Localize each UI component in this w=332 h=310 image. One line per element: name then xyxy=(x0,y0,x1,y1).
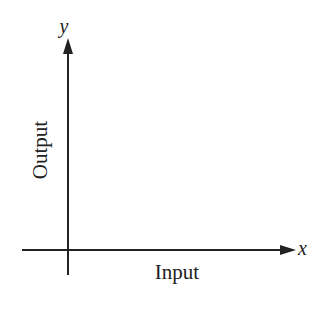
y-axis-label: Output xyxy=(28,121,52,180)
y-axis-letter: y xyxy=(58,15,69,38)
y-axis-arrowhead-icon xyxy=(63,38,73,54)
axes-diagram: y x Input Output xyxy=(0,0,332,310)
x-axis-letter: x xyxy=(297,237,307,259)
x-axis-arrowhead-icon xyxy=(280,245,296,255)
x-axis-label: Input xyxy=(155,260,199,284)
